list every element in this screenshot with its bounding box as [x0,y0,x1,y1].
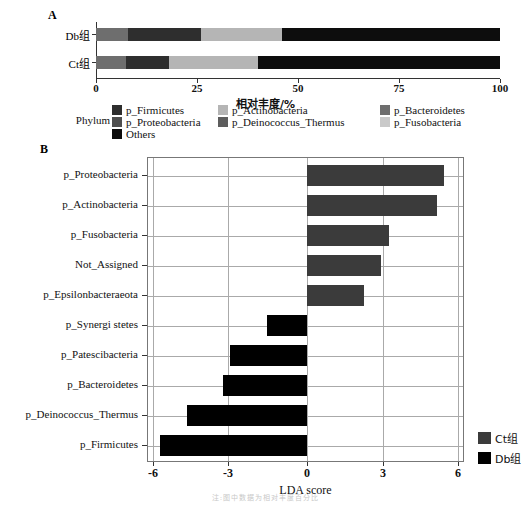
panel-a-x-label-50: 50 [293,82,304,94]
legend-label-firmicutes: p_Firmicutes [126,104,184,116]
legend-label-fusobacteria: p_Fusobacteria [394,116,461,128]
panel-b-x-label-0: 0 [304,466,310,481]
panel-b-x-label-3: 3 [380,466,386,481]
legend-item-proteobacteria[interactable]: p_Proteobacteria [112,116,201,128]
panel-b-legend-swatch-db [478,452,491,464]
panel-b-bar-not-assigned [307,255,381,276]
panel-b-bar-p-proteobacteria [307,165,444,186]
panel-b-y-tick-6 [142,355,147,356]
panel-a-legend: Phylum p_Firmicutes p_Proteobacteria Oth… [60,104,530,140]
legend-item-deinococcus-thermus[interactable]: p_Deinococcus_Thermus [218,116,344,128]
panel-b-x-label--6: -6 [148,466,158,481]
panel-a-bar-ct [96,56,500,69]
figure-root: A Db组 Ct组 0 25 50 75 100 [0,0,531,508]
panel-b-gridline-y-3 [148,266,463,267]
panel-a-seg-db-bacteroidetes [96,28,128,41]
panel-b-plot-area [147,157,464,462]
panel-b-gridline-y-4 [148,296,463,297]
panel-b-lda-chart: B [0,140,531,508]
legend-label-bacteroidetes: p_Bacteroidetes [394,104,465,116]
panel-a-seg-ct-firmicutes [126,56,168,69]
panel-b-y-label-p-epsilonbacteraeota: p_Epsilonbacteraeota [43,288,138,300]
panel-b-y-tick-9 [142,445,147,446]
panel-b-x-label-6: 6 [455,466,461,481]
panel-a-x-label-75: 75 [394,82,405,94]
panel-b-gridline-y-2 [148,236,463,237]
panel-b-legend-label-ct: Ct组 [495,430,518,446]
legend-item-others[interactable]: Others [112,128,155,140]
panel-a-y-label-db: Db组 [30,27,90,43]
panel-b-y-tick-3 [142,265,147,266]
legend-swatch-fusobacteria [380,117,390,127]
legend-swatch-bacteroidetes [380,105,390,115]
figure-footer-note: 注:图中数据为相对丰度百分比 [0,492,531,502]
panel-b-y-label-p-synergi-stetes: p_Synergi stetes [66,318,138,330]
panel-b-y-tick-2 [142,235,147,236]
panel-a-seg-ct-bacteroidetes [96,56,126,69]
panel-b-y-tick-0 [142,175,147,176]
panel-b-y-label-p-fusobacteria: p_Fusobacteria [71,228,138,240]
panel-a-seg-db-others [282,28,500,41]
panel-a-x-label-25: 25 [192,82,203,94]
panel-b-y-label-p-patescibacteria: p_Patescibacteria [61,348,138,360]
panel-a-seg-ct-others [258,56,500,69]
legend-item-fusobacteria[interactable]: p_Fusobacteria [380,116,461,128]
panel-b-y-tick-8 [142,415,147,416]
panel-b-bar-p-deinococcus-thermus [187,405,307,426]
panel-b-y-label-p-actinobacteria: p_Actinobacteria [62,198,138,210]
legend-label-others: Others [126,128,155,140]
panel-b-y-tick-7 [142,385,147,386]
legend-swatch-firmicutes [112,105,122,115]
panel-b-legend-label-db: Db组 [495,450,521,466]
panel-a-seg-db-firmicutes [128,28,201,41]
panel-b-y-tick-1 [142,205,147,206]
panel-b-bar-p-bacteroidetes [223,375,307,396]
panel-b-y-tick-4 [142,295,147,296]
panel-b-y-label-p-deinococcus-thermus: p_Deinococcus_Thermus [26,408,138,420]
legend-swatch-deinococcus-thermus [218,117,228,127]
legend-label-proteobacteria: p_Proteobacteria [126,116,201,128]
panel-b-x-label--3: -3 [223,466,233,481]
legend-label-deinococcus-thermus: p_Deinococcus_Thermus [232,116,344,128]
panel-b-bar-p-firmicutes [160,435,307,456]
panel-a-x-label-100: 100 [492,82,509,94]
legend-swatch-actinobacteria [218,105,228,115]
panel-b-bar-p-fusobacteria [307,225,389,246]
panel-b-y-label-p-proteobacteria: p_Proteobacteria [63,168,138,180]
legend-item-bacteroidetes[interactable]: p_Bacteroidetes [380,104,465,116]
panel-b-bar-p-synergi-stetes [267,315,307,336]
panel-b-y-tick-5 [142,325,147,326]
panel-b-legend: Ct组 Db组 [478,430,521,470]
panel-b-legend-swatch-ct [478,432,491,444]
panel-a-bar-db [96,28,500,41]
panel-a-seg-ct-actinobacteria [169,56,258,69]
legend-label-actinobacteria: p_Actinobacteria [232,104,308,116]
panel-b-legend-item-db[interactable]: Db组 [478,450,521,466]
panel-b-legend-item-ct[interactable]: Ct组 [478,430,521,446]
panel-a-legend-title: Phylum [60,114,110,126]
panel-b-label: B [40,142,48,157]
panel-b-y-label-p-bacteroidetes: p_Bacteroidetes [67,378,138,390]
panel-a-y-label-ct: Ct组 [30,55,90,71]
legend-item-actinobacteria[interactable]: p_Actinobacteria [218,104,308,116]
legend-item-firmicutes[interactable]: p_Firmicutes [112,104,184,116]
legend-swatch-proteobacteria [112,117,122,127]
panel-b-y-label-not-assigned: Not_Assigned [75,258,138,270]
panel-a-seg-db-actinobacteria [201,28,282,41]
panel-a-x-label-0: 0 [93,82,99,94]
panel-b-bar-p-patescibacteria [230,345,307,366]
legend-swatch-others [112,129,122,139]
panel-b-bar-p-epsilonbacteraeota [307,285,364,306]
panel-a-label: A [48,8,57,23]
panel-b-y-label-p-firmicutes: p_Firmicutes [80,438,138,450]
panel-a-stacked-bar-chart: A Db组 Ct组 0 25 50 75 100 [0,0,531,140]
panel-b-bar-p-actinobacteria [307,195,437,216]
